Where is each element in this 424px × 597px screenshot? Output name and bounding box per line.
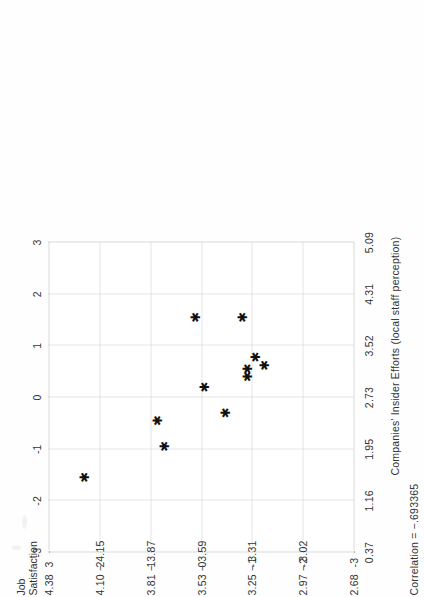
x-tick-label-raw: 4.31: [362, 283, 374, 304]
scanned-figure-page: ✱✱✱✱✱✱✱✱✱✱✱ -3-2-10123 0.371.161.952.733…: [0, 0, 424, 597]
gridline-horizontal: [99, 242, 100, 552]
x-tick-label-raw: 5.09: [362, 231, 374, 252]
gridline-horizontal: [251, 242, 252, 552]
y-tick-label-standardized: -3: [347, 557, 359, 567]
scan-artifact: [12, 545, 21, 550]
rotated-figure-stage: ✱✱✱✱✱✱✱✱✱✱✱ -3-2-10123 0.371.161.952.733…: [0, 0, 424, 597]
y-tick-label-standardized: 3: [42, 561, 54, 567]
y-tick-label-raw: 4.10 − 4.15: [93, 540, 105, 595]
gridline-horizontal: [150, 242, 151, 552]
x-tick-label-standardized: 1: [30, 342, 42, 348]
y-tick-label-raw: 2.68: [347, 574, 359, 595]
x-axis-title: Companies' Insider Efforts (local staff …: [388, 236, 400, 475]
scatter-plot-area: ✱✱✱✱✱✱✱✱✱✱✱: [48, 242, 353, 552]
y-tick-label-raw: 3.25 − 3.31: [245, 540, 257, 595]
y-tick-label-raw: 4.38: [42, 574, 54, 595]
x-tick-label-raw: 2.73: [362, 386, 374, 407]
x-tick-label-raw: 1.95: [362, 438, 374, 459]
gridline-horizontal: [48, 242, 49, 552]
y-axis-title-line2: Satisfaction: [26, 541, 38, 595]
gridline-horizontal: [353, 242, 354, 552]
x-tick-label-standardized: -2: [30, 495, 42, 505]
x-tick-label-raw: 3.52: [362, 335, 374, 356]
y-tick-label-raw: 3.81 − 3.87: [144, 540, 156, 595]
correlation-label: Correlation = −.693365: [407, 483, 419, 595]
x-tick-label-raw: 1.16: [362, 490, 374, 511]
y-tick-label-raw: 2.97 − 3.02: [296, 540, 308, 595]
x-tick-label-standardized: 3: [30, 239, 42, 245]
gridline-horizontal: [201, 242, 202, 552]
x-tick-label-standardized: 0: [30, 394, 42, 400]
y-tick-label-raw: 3.53 − 3.59: [195, 540, 207, 595]
x-tick-label-standardized: 2: [30, 291, 42, 297]
gridline-horizontal: [302, 242, 303, 552]
x-tick-label-standardized: -1: [30, 444, 42, 454]
x-tick-label-raw: 0.37: [362, 541, 374, 562]
scan-artifact: [22, 515, 27, 529]
